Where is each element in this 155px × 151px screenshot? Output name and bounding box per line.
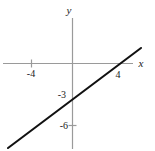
line-graph-figure: y x -4 4 -3 -6 xyxy=(0,0,155,151)
y-tick-label-neg6: -6 xyxy=(60,120,68,131)
x-axis-label: x xyxy=(138,57,144,69)
y-tick-label-neg3: -3 xyxy=(58,89,66,100)
coordinate-plane: y x -4 4 -3 -6 xyxy=(0,0,155,151)
x-tick-label-4: 4 xyxy=(116,69,121,80)
x-tick-label-neg4: -4 xyxy=(27,68,35,79)
y-axis-label: y xyxy=(66,4,72,16)
